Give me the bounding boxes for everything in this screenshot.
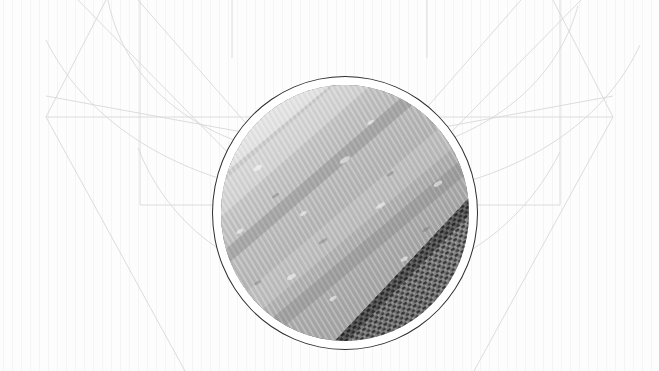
diagonal-left-vertex-up [46, 0, 106, 117]
specimen-photograph [221, 85, 469, 341]
photo-medallion[interactable] [212, 76, 478, 350]
medallion-photo [221, 85, 469, 341]
diagonal-right-vertex-down [474, 117, 613, 371]
slide-canvas [0, 0, 659, 371]
